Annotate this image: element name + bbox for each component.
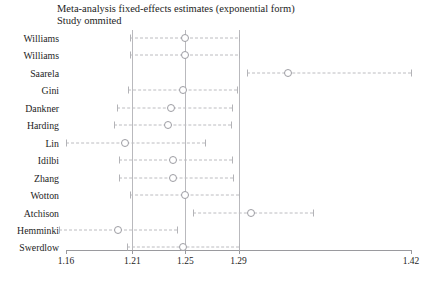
estimate-marker (114, 226, 122, 234)
reference-line (185, 30, 186, 250)
confidence-interval-cap (411, 69, 412, 76)
estimate-marker (179, 86, 187, 94)
confidence-interval-cap (239, 244, 240, 251)
estimate-marker (169, 174, 177, 182)
x-axis-tick (132, 250, 133, 254)
x-axis-tick (66, 250, 67, 254)
x-axis-tick-label: 1.29 (214, 256, 264, 266)
confidence-interval-cap (239, 35, 240, 42)
estimate-marker (167, 104, 175, 112)
estimate-marker (181, 51, 189, 59)
confidence-interval-cap (128, 87, 129, 94)
x-axis-tick (185, 250, 186, 254)
confidence-interval-line (247, 72, 411, 73)
confidence-interval-line (114, 125, 231, 126)
confidence-interval-cap (193, 209, 194, 216)
reference-line (132, 30, 133, 250)
confidence-interval-cap (232, 104, 233, 111)
estimate-marker (284, 69, 292, 77)
x-axis-tick-label: 1.21 (107, 256, 157, 266)
estimate-marker (179, 243, 187, 251)
confidence-interval-cap (231, 122, 232, 129)
confidence-interval-cap (130, 192, 131, 199)
x-axis-tick (411, 250, 412, 254)
confidence-interval-cap (117, 104, 118, 111)
confidence-interval-cap (247, 69, 248, 76)
confidence-interval-cap (130, 52, 131, 59)
confidence-interval-cap (205, 139, 206, 146)
confidence-interval-cap (177, 226, 178, 233)
confidence-interval-line (66, 142, 205, 143)
forest-plot: Meta-analysis fixed-effects estimates (e… (0, 0, 430, 284)
x-axis-tick-label: 1.16 (41, 256, 91, 266)
estimate-marker (169, 156, 177, 164)
confidence-interval-cap (239, 52, 240, 59)
confidence-interval-cap (119, 174, 120, 181)
confidence-interval-cap (59, 226, 60, 233)
confidence-interval-cap (130, 35, 131, 42)
confidence-interval-cap (119, 157, 120, 164)
confidence-interval-cap (114, 122, 115, 129)
estimate-marker (181, 191, 189, 199)
confidence-interval-cap (127, 244, 128, 251)
plot-area: 1.161.211.251.291.42 (0, 0, 430, 284)
confidence-interval-cap (239, 192, 240, 199)
reference-line (239, 30, 240, 250)
x-axis-tick-label: 1.42 (386, 256, 430, 266)
confidence-interval-cap (313, 209, 314, 216)
estimate-marker (164, 121, 172, 129)
confidence-interval-cap (66, 139, 67, 146)
confidence-interval-cap (233, 174, 234, 181)
estimate-marker (121, 139, 129, 147)
x-axis-tick-label: 1.25 (160, 256, 210, 266)
estimate-marker (181, 34, 189, 42)
confidence-interval-cap (232, 157, 233, 164)
confidence-interval-cap (237, 87, 238, 94)
estimate-marker (247, 209, 255, 217)
